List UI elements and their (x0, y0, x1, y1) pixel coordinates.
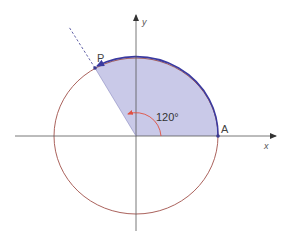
y-axis-label: y (141, 17, 147, 27)
x-axis-label: x (263, 141, 269, 151)
point-a-dot (216, 134, 220, 138)
angle-label: 120° (156, 111, 179, 123)
point-p-label: P (97, 52, 104, 64)
shaded-sector (95, 58, 218, 136)
unit-circle-diagram: x y A P 120° (0, 0, 291, 243)
dashed-ray-extension (69, 27, 95, 68)
point-p-dot (93, 66, 97, 70)
point-a-label: A (221, 123, 229, 135)
